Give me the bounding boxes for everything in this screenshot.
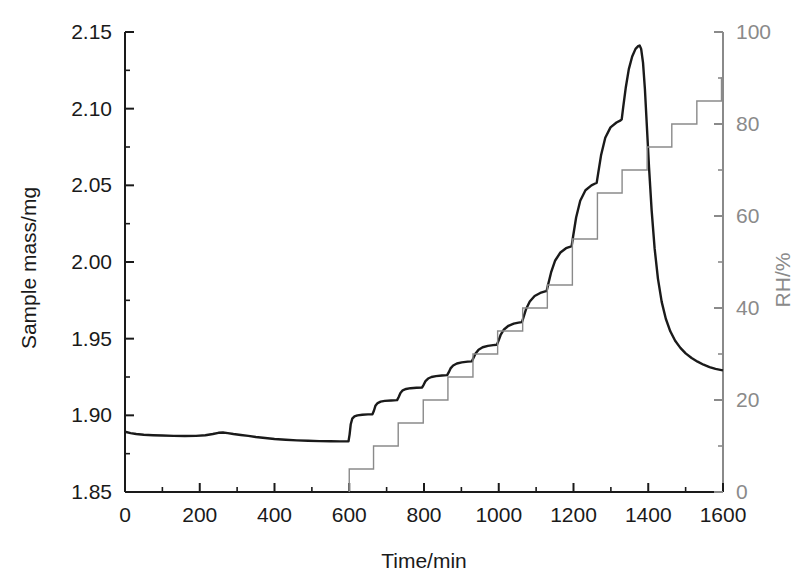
y2-tick-label: 80 xyxy=(736,112,759,135)
x-tick-label: 400 xyxy=(257,503,292,526)
y2-tick-label: 20 xyxy=(736,388,759,411)
chart-background xyxy=(0,0,812,588)
y-tick-label: 1.85 xyxy=(71,480,112,503)
x-tick-label: 800 xyxy=(406,503,441,526)
y2-tick-label: 100 xyxy=(736,20,771,43)
y-axis-title: Sample mass/mg xyxy=(17,187,40,349)
y-tick-label: 1.90 xyxy=(71,403,112,426)
x-tick-label: 200 xyxy=(182,503,217,526)
y2-tick-label: 60 xyxy=(736,204,759,227)
y-tick-label: 2.05 xyxy=(71,173,112,196)
x-tick-label: 1000 xyxy=(475,503,522,526)
chart-svg: 020040060080010001200140016001.851.901.9… xyxy=(0,0,812,588)
x-tick-label: 0 xyxy=(119,503,131,526)
y2-axis-title: RH/% xyxy=(771,253,794,308)
x-tick-label: 1200 xyxy=(550,503,597,526)
chart-figure: 020040060080010001200140016001.851.901.9… xyxy=(0,0,812,588)
y2-tick-label: 40 xyxy=(736,296,759,319)
x-axis-title: Time/min xyxy=(381,549,467,572)
y-tick-label: 2.00 xyxy=(71,250,112,273)
x-tick-label: 1400 xyxy=(625,503,672,526)
y-tick-label: 1.95 xyxy=(71,327,112,350)
y2-tick-label: 0 xyxy=(736,480,748,503)
y-tick-label: 2.10 xyxy=(71,97,112,120)
x-tick-label: 600 xyxy=(332,503,367,526)
x-tick-label: 1600 xyxy=(700,503,747,526)
y-tick-label: 2.15 xyxy=(71,20,112,43)
